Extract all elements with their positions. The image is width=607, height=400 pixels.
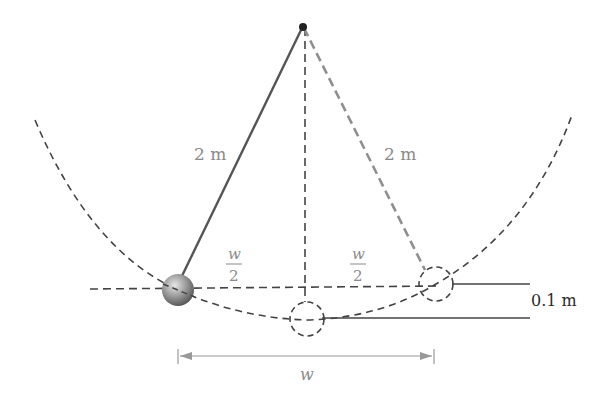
arrowhead-right — [420, 352, 432, 360]
bob-level-line — [90, 286, 440, 289]
label-half-width-left-den: 2 — [229, 267, 239, 285]
label-string-right: 2 m — [384, 144, 416, 164]
label-half-width-right-num: w — [352, 245, 365, 263]
label-width: w — [300, 365, 314, 384]
swing-arc — [35, 115, 572, 320]
pendulum-diagram: 2 m 2 m w 2 w 2 0.1 m w — [0, 0, 607, 400]
pivot-point — [299, 23, 307, 31]
label-half-width-left-num: w — [228, 245, 241, 263]
arrowhead-left — [180, 352, 192, 360]
label-height-diff: 0.1 m — [531, 291, 577, 310]
label-string-left: 2 m — [194, 144, 226, 164]
pendulum-bob — [162, 274, 194, 306]
label-half-width-right-den: 2 — [353, 267, 363, 285]
